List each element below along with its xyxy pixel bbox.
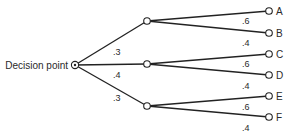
probability-label: .6 [242, 102, 250, 112]
probability-label: .4 [242, 38, 250, 48]
chance-node-2 [144, 103, 151, 110]
edge-root-to-chance-0 [75, 21, 147, 65]
chance-node-0 [144, 18, 151, 25]
probability-label: .3 [113, 47, 121, 57]
edge-to-outcome-c [147, 54, 269, 64]
outcome-label: E [276, 91, 283, 102]
decision-tree-diagram: .3.4.3.6A.4B.6C.4D.6E.4FDecision point [0, 0, 290, 133]
outcome-label: C [276, 49, 283, 60]
outcome-node-c [266, 51, 273, 58]
tree-edges [75, 11, 269, 117]
outcome-label: F [276, 112, 282, 123]
probability-label: .3 [113, 93, 121, 103]
outcome-node-d [266, 72, 273, 79]
outcome-node-e [266, 93, 273, 100]
outcome-label: B [276, 28, 283, 39]
probability-label: .4 [242, 81, 250, 91]
probability-label: .6 [242, 16, 250, 26]
edge-root-to-chance-2 [75, 65, 147, 106]
edge-root-to-chance-1 [75, 64, 147, 65]
edge-to-outcome-b [147, 21, 269, 33]
outcome-label: A [276, 6, 283, 17]
edge-to-outcome-f [147, 106, 269, 117]
outcome-label: D [276, 70, 283, 81]
probability-label: .6 [242, 59, 250, 69]
edge-to-outcome-e [147, 96, 269, 106]
edge-to-outcome-d [147, 64, 269, 75]
outcome-node-b [266, 30, 273, 37]
outcome-node-a [266, 8, 273, 15]
decision-point-label: Decision point [5, 60, 68, 71]
chance-node-1 [144, 61, 151, 68]
edge-to-outcome-a [147, 11, 269, 21]
outcome-node-f [266, 114, 273, 121]
probability-label: .4 [242, 123, 250, 133]
decision-point-dot [74, 64, 76, 66]
probability-label: .4 [113, 70, 121, 80]
